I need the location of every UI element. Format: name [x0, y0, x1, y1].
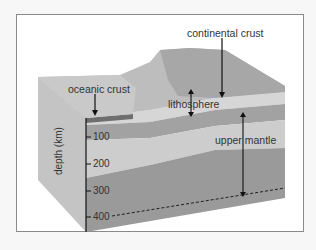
label-oceanic-crust: oceanic crust	[68, 84, 130, 95]
label-lithosphere: lithosphere	[168, 99, 219, 110]
label-upper-mantle: upper mantle	[215, 135, 276, 146]
cross-section-illustration	[0, 0, 316, 250]
tick-200: 200	[93, 159, 110, 169]
tick-300: 300	[93, 186, 110, 196]
label-continental-crust: continental crust	[187, 28, 263, 39]
tick-400: 400	[93, 212, 110, 222]
depth-axis-label: depth (km)	[54, 127, 64, 175]
tick-100: 100	[93, 132, 110, 142]
